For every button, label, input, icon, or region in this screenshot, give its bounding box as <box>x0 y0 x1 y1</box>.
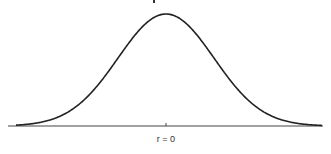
normal-curve <box>16 14 322 125</box>
bell-curve-chart: r = 0 <box>0 0 331 154</box>
clipped-title-fragment <box>153 0 155 3</box>
center-tick-label: r = 0 <box>157 134 175 144</box>
